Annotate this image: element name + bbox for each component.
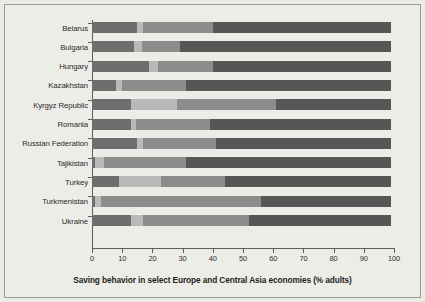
bar-segment-segment-3 — [142, 41, 180, 52]
bar-segment-segment-4 — [186, 80, 391, 91]
bar-segment-segment-3 — [104, 157, 186, 168]
bar-segment-segment-4 — [261, 196, 391, 207]
bar-segment-segment-2 — [134, 41, 142, 52]
chart-title: Saving behavior in select Europe and Cen… — [0, 275, 425, 285]
plot-area — [92, 22, 394, 244]
x-tick-label-10: 100 — [388, 254, 400, 263]
bar-row — [92, 157, 394, 168]
bar-segment-segment-3 — [101, 196, 261, 207]
bar-segment-segment-4 — [225, 176, 391, 187]
y-axis-label-romania: Romania — [57, 120, 88, 129]
x-tick-5 — [243, 249, 244, 253]
bar-segment-segment-4 — [213, 22, 391, 33]
y-tick-9 — [88, 196, 92, 197]
y-tick-3 — [88, 80, 92, 81]
x-tick-4 — [213, 249, 214, 253]
y-axis-label-turkey: Turkey — [65, 177, 88, 186]
x-tick-label-7: 70 — [299, 254, 307, 263]
bar-segment-segment-3 — [143, 215, 249, 226]
chart-figure: BelarusBulgariaHungaryKazakhstanKyrgyz R… — [0, 0, 425, 302]
y-axis-label-hungary: Hungary — [59, 62, 88, 71]
bar-segment-segment-3 — [122, 80, 185, 91]
bar-segment-segment-3 — [143, 22, 212, 33]
bar-segment-segment-4 — [210, 119, 391, 130]
bar-segment-segment-3 — [161, 176, 224, 187]
bar-segment-segment-4 — [186, 157, 391, 168]
x-tick-3 — [183, 249, 184, 253]
y-tick-1 — [88, 42, 92, 43]
bar-row — [92, 80, 394, 91]
bar-segment-segment-2 — [149, 61, 158, 72]
y-tick-4 — [88, 100, 92, 101]
y-tick-0 — [88, 23, 92, 24]
bar-segment-segment-3 — [136, 119, 210, 130]
y-axis-label-bulgaria: Bulgaria — [60, 42, 88, 51]
bar-segment-segment-2 — [119, 176, 161, 187]
bar-row — [92, 215, 394, 226]
bar-segment-segment-1 — [92, 215, 131, 226]
x-tick-label-9: 90 — [360, 254, 368, 263]
x-tick-0 — [92, 249, 93, 253]
bar-row — [92, 41, 394, 52]
bar-segment-segment-3 — [143, 138, 215, 149]
bar-segment-segment-1 — [92, 41, 134, 52]
y-tick-10 — [88, 216, 92, 217]
x-tick-label-4: 40 — [209, 254, 217, 263]
y-axis-label-ukraine: Ukraine — [62, 216, 88, 225]
bar-segment-segment-4 — [276, 99, 391, 110]
bar-segment-segment-2 — [131, 215, 143, 226]
y-tick-5 — [88, 119, 92, 120]
bar-segment-segment-1 — [92, 138, 137, 149]
bar-row — [92, 22, 394, 33]
x-tick-label-0: 0 — [90, 254, 94, 263]
y-tick-6 — [88, 138, 92, 139]
x-tick-8 — [334, 249, 335, 253]
bar-segment-segment-1 — [92, 119, 131, 130]
bar-segment-segment-1 — [92, 80, 116, 91]
x-tick-7 — [303, 249, 304, 253]
bar-segment-segment-1 — [92, 99, 131, 110]
bar-segment-segment-1 — [92, 22, 137, 33]
bar-segment-segment-4 — [216, 138, 391, 149]
y-axis-label-kyrgyz-republic: Kyrgyz Republic — [33, 100, 88, 109]
bar-segment-segment-4 — [213, 61, 391, 72]
x-tick-1 — [122, 249, 123, 253]
x-tick-6 — [273, 249, 274, 253]
x-tick-label-6: 60 — [269, 254, 277, 263]
bar-segment-segment-3 — [158, 61, 212, 72]
x-tick-label-2: 20 — [148, 254, 156, 263]
bar-row — [92, 138, 394, 149]
y-axis-label-russian-federation: Russian Federation — [22, 139, 88, 148]
bar-segment-segment-4 — [249, 215, 391, 226]
y-axis-label-kazakhstan: Kazakhstan — [48, 81, 88, 90]
y-axis-label-tajikistan: Tajikistan — [57, 158, 88, 167]
bar-segment-segment-1 — [92, 61, 149, 72]
x-tick-label-1: 10 — [118, 254, 126, 263]
bar-row — [92, 119, 394, 130]
bar-segment-segment-2 — [95, 157, 104, 168]
x-tick-label-8: 80 — [330, 254, 338, 263]
bar-row — [92, 99, 394, 110]
y-tick-2 — [88, 61, 92, 62]
y-tick-7 — [88, 158, 92, 159]
bar-row — [92, 196, 394, 207]
x-tick-9 — [364, 249, 365, 253]
x-tick-2 — [152, 249, 153, 253]
y-tick-8 — [88, 177, 92, 178]
x-tick-label-3: 30 — [179, 254, 187, 263]
y-axis-label-turkmenistan: Turkmenistan — [42, 197, 88, 206]
bar-row — [92, 61, 394, 72]
bar-segment-segment-2 — [131, 99, 176, 110]
bar-row — [92, 176, 394, 187]
bar-segment-segment-4 — [180, 41, 391, 52]
bar-segment-segment-1 — [92, 176, 119, 187]
y-axis-category-labels: BelarusBulgariaHungaryKazakhstanKyrgyz R… — [0, 0, 88, 302]
y-axis-label-belarus: Belarus — [62, 23, 88, 32]
x-tick-10 — [394, 249, 395, 253]
x-tick-label-5: 50 — [239, 254, 247, 263]
bar-segment-segment-3 — [177, 99, 277, 110]
